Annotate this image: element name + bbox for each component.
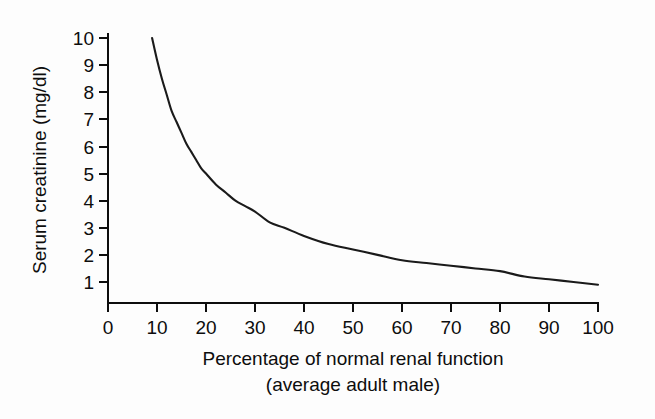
x-tick-label: 50 [342, 317, 363, 338]
y-tick-label: 3 [83, 218, 94, 239]
x-tick-label: 20 [195, 317, 216, 338]
x-tick-label: 10 [146, 317, 167, 338]
x-tick-label: 80 [489, 317, 510, 338]
x-tick-label: 30 [244, 317, 265, 338]
y-tick-label: 2 [83, 245, 94, 266]
y-tick-labels: 10 9 8 7 6 5 4 3 2 1 [73, 28, 95, 293]
y-tick-label: 5 [83, 164, 94, 185]
serum-creatinine-chart: 10 9 8 7 6 5 4 3 2 1 0 10 [0, 0, 655, 419]
serum-creatinine-curve [152, 38, 598, 285]
y-tick-label: 8 [83, 82, 94, 103]
y-tick-label: 6 [83, 137, 94, 158]
y-tick-label: 7 [83, 109, 94, 130]
chart-figure: 10 9 8 7 6 5 4 3 2 1 0 10 [0, 0, 655, 419]
y-tick-label: 9 [83, 55, 94, 76]
y-axis-ticks [99, 38, 108, 282]
x-tick-labels: 0 10 20 30 40 50 60 70 80 90 100 [103, 317, 614, 338]
x-tick-label: 60 [391, 317, 412, 338]
x-tick-label: 0 [103, 317, 114, 338]
y-axis-title: Serum creatinine (mg/dl) [29, 66, 50, 274]
y-tick-label: 4 [83, 191, 94, 212]
x-tick-label: 40 [293, 317, 314, 338]
x-tick-label: 100 [582, 317, 614, 338]
y-tick-label: 1 [83, 272, 94, 293]
x-axis-title-line2: (average adult male) [266, 374, 440, 395]
x-axis-title-line1: Percentage of normal renal function [202, 348, 503, 369]
y-tick-label: 10 [73, 28, 94, 49]
x-tick-label: 70 [440, 317, 461, 338]
x-axis-ticks [108, 303, 598, 312]
x-tick-label: 90 [538, 317, 559, 338]
